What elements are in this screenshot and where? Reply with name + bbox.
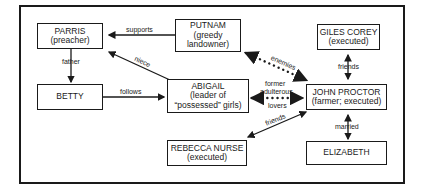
label-former: former [265, 80, 285, 88]
label-married: married [335, 123, 359, 131]
node-rebecca-nurse: REBECCA NURSE (executed) [167, 140, 247, 166]
label-supports: supports [126, 26, 153, 34]
node-abigail-desc2: “possessed” girls) [174, 101, 241, 111]
node-giles-desc: (executed) [328, 37, 368, 47]
node-proctor-desc: (farmer; executed) [312, 97, 381, 107]
label-friends-giles: friends [338, 63, 359, 71]
node-rebecca-desc: (executed) [187, 153, 227, 163]
node-betty-name: BETTY [56, 92, 83, 102]
label-father: father [62, 58, 80, 66]
label-adulterous: adulterous [260, 88, 293, 96]
node-putnam-desc2: landowner) [187, 40, 229, 50]
node-giles-corey: GILES COREY (executed) [317, 24, 380, 50]
node-abigail: ABIGAIL (leader of “possessed” girls) [167, 79, 249, 113]
label-follows: follows [120, 88, 141, 96]
label-lovers: lovers [268, 102, 287, 110]
node-parris-desc: (preacher) [50, 36, 89, 46]
node-elizabeth-name: ELIZABETH [323, 148, 369, 158]
node-parris: PARRIS (preacher) [37, 23, 103, 49]
node-john-proctor: JOHN PROCTOR (farmer; executed) [306, 84, 387, 110]
node-betty: BETTY [37, 84, 103, 110]
node-elizabeth: ELIZABETH [306, 141, 387, 165]
node-putnam: PUTNAM (greedy landowner) [175, 19, 241, 52]
